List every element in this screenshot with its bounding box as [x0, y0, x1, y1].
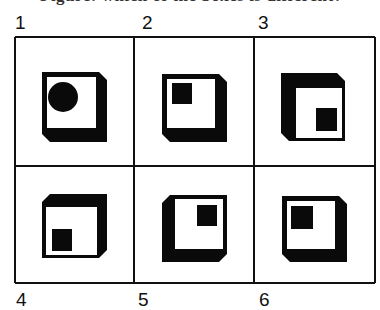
cell-number-label-4: 4 [16, 290, 27, 309]
cell-number-label-5: 5 [138, 290, 149, 309]
figure-option-5[interactable] [162, 195, 227, 262]
filled-circle-icon [48, 82, 78, 112]
filled-square-icon [197, 205, 217, 226]
filled-square-icon [172, 83, 192, 104]
figure-option-1[interactable] [42, 72, 107, 142]
cell-number-label-2: 2 [142, 13, 153, 32]
filled-square-icon [291, 206, 313, 229]
cell-number-label-1: 1 [15, 13, 26, 32]
figure-option-2[interactable] [162, 74, 227, 142]
figure-option-4[interactable] [42, 194, 107, 258]
filled-square-icon [52, 229, 72, 251]
cell-number-label-6: 6 [259, 290, 270, 309]
figure-option-3[interactable] [281, 73, 345, 141]
filled-square-icon [316, 108, 337, 131]
cell-number-label-3: 3 [258, 13, 269, 32]
puzzle-grid [0, 0, 380, 310]
figure-option-6[interactable] [282, 196, 347, 262]
